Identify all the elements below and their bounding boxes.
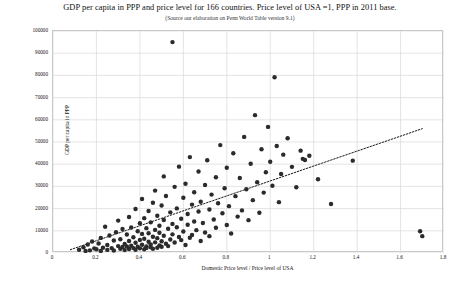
x-tick-label: 1.4 (341, 254, 371, 260)
y-axis-title: GDP per capita in PPP (64, 85, 70, 175)
y-tick-label: 40000 (4, 160, 48, 166)
scatter-chart: GDP per capita in PPP and price level fo… (0, 0, 460, 285)
plot-svg (53, 31, 444, 253)
x-axis-title: Domestic Price level / Price level of US… (52, 265, 443, 271)
y-tick-label: 70000 (4, 94, 48, 100)
y-tick-label: 10000 (4, 227, 48, 233)
x-tick-label: 0 (37, 254, 67, 260)
plot-area: GDP per capita in PPP (52, 30, 443, 252)
x-tick-label: 1 (254, 254, 284, 260)
y-tick-label: 30000 (4, 182, 48, 188)
data-points-group (77, 40, 425, 253)
x-tick-label: 0.8 (211, 254, 241, 260)
y-tick-label: 80000 (4, 71, 48, 77)
x-tick-label: 1.2 (298, 254, 328, 260)
x-tick-label: 0.2 (80, 254, 110, 260)
x-tick-label: 0.6 (167, 254, 197, 260)
x-tick-label: 1.8 (428, 254, 458, 260)
x-tick-label: 0.4 (124, 254, 154, 260)
y-tick-label: 50000 (4, 138, 48, 144)
y-tick-label: 60000 (4, 116, 48, 122)
y-tick-label: 20000 (4, 205, 48, 211)
x-tick-label: 1.6 (385, 254, 415, 260)
y-tick-label: 100000 (4, 27, 48, 33)
y-tick-label: 90000 (4, 49, 48, 55)
